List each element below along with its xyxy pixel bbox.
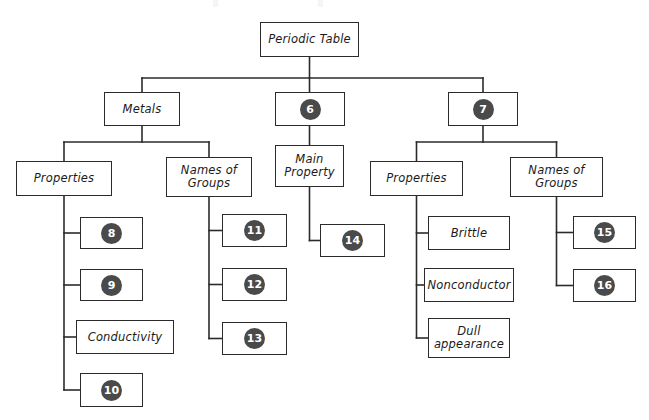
node-blank-15: 15 [573, 216, 636, 249]
connector-lines [0, 0, 649, 420]
node-label: Periodic Table [265, 33, 354, 46]
blank-number-badge: 16 [594, 275, 615, 296]
node-label: Nonconductor [424, 279, 513, 292]
node-metals: Metals [104, 92, 180, 126]
node-label: Names of Groups [525, 164, 587, 190]
blank-number-badge: 8 [101, 223, 122, 244]
node-blank-7: 7 [448, 92, 518, 126]
node-label: Dull appearance [431, 325, 507, 351]
blank-number-badge: 6 [300, 99, 321, 120]
node-main-property: Main Property [275, 145, 344, 187]
concept-map-diagram: Periodic Table Metals 6 7 Properties Nam… [0, 0, 649, 420]
node-metals-properties: Properties [16, 161, 112, 196]
node-label: Properties [383, 172, 450, 185]
node-label: Names of Groups [178, 164, 240, 190]
blank-number-badge: 14 [342, 230, 363, 251]
node-blank-11: 11 [222, 214, 287, 247]
node-label: Metals [120, 103, 165, 116]
scan-artifact-left [213, 0, 218, 7]
blank-number-badge: 11 [244, 220, 265, 241]
blank-number-badge: 9 [101, 275, 122, 296]
node-label: Conductivity [85, 331, 166, 344]
node-conductivity: Conductivity [76, 320, 174, 354]
node-blank-13: 13 [222, 322, 287, 355]
blank-number-badge: 10 [101, 380, 122, 401]
node-label: Main Property [281, 153, 338, 179]
node-blank-16: 16 [573, 269, 636, 302]
blank-number-badge: 15 [594, 222, 615, 243]
node-dull-appearance: Dull appearance [428, 318, 510, 358]
node-blank-9: 9 [80, 269, 143, 301]
node-blank-10: 10 [80, 373, 143, 407]
blank-number-badge: 7 [473, 99, 494, 120]
node-label: Properties [31, 172, 98, 185]
node-blank-8: 8 [80, 217, 143, 249]
node-nonmetals-properties: Properties [370, 161, 463, 196]
node-label: Brittle [448, 227, 491, 240]
node-nonmetals-names-of-groups: Names of Groups [510, 157, 603, 197]
node-blank-12: 12 [222, 268, 287, 301]
blank-number-badge: 12 [244, 274, 265, 295]
node-periodic-table: Periodic Table [260, 22, 359, 57]
node-blank-14: 14 [320, 224, 385, 257]
node-nonconductor: Nonconductor [424, 268, 514, 302]
blank-number-badge: 13 [244, 328, 265, 349]
node-metals-names-of-groups: Names of Groups [166, 157, 252, 197]
node-brittle: Brittle [428, 216, 510, 250]
node-blank-6: 6 [275, 92, 345, 126]
scan-artifact-right [318, 0, 323, 7]
